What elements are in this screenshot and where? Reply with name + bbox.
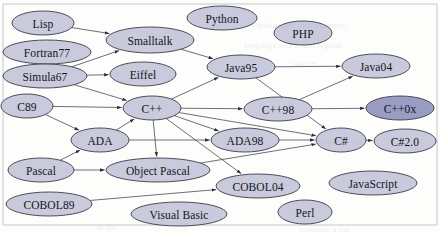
graph-edge-lisp-to-smalltalk [72, 28, 110, 34]
node-label-php: PHP [292, 28, 313, 40]
graph-node-cpp[interactable]: C++ [123, 96, 181, 120]
node-label-csharp20: C#2.0 [391, 136, 419, 148]
node-label-simula67: Simula67 [23, 71, 68, 83]
node-label-cpp: C++ [142, 103, 163, 115]
node-label-javascript: JavaScript [349, 178, 399, 191]
graph-edge-pascal-to-ada [60, 150, 80, 160]
graph-svg: LispFortran77Simula67C89SmalltalkEiffelC… [0, 0, 440, 232]
graph-edge-simula67-to-cpp [74, 85, 127, 101]
graph-node-pascal[interactable]: Pascal [8, 158, 74, 182]
graph-node-perl[interactable]: Perl [278, 200, 332, 224]
node-label-eiffel: Eiffel [130, 69, 157, 81]
graph-edge-cpp-to-java95 [171, 77, 218, 99]
graph-node-visualbasic[interactable]: Visual Basic [131, 202, 227, 226]
node-label-cpp0x: C++0x [384, 103, 417, 115]
graph-node-python[interactable]: Python [187, 6, 257, 30]
node-label-java95: Java95 [225, 62, 258, 74]
graph-edge-c89-to-cpp [53, 106, 122, 107]
node-label-objectpascal: Object Pascal [126, 165, 190, 178]
graph-node-javascript[interactable]: JavaScript [329, 171, 417, 195]
graph-edges-layer [45, 28, 372, 201]
graph-node-eiffel[interactable]: Eiffel [110, 62, 176, 86]
graph-node-php[interactable]: PHP [274, 21, 332, 45]
node-label-cobol04: COBOL04 [232, 181, 283, 193]
graph-edge-smalltalk-to-java95 [181, 49, 213, 58]
node-label-ada: ADA [87, 135, 113, 147]
node-label-lisp: Lisp [33, 18, 54, 31]
graph-edge-cpp98-to-java04 [299, 76, 352, 99]
graph-node-cobol89[interactable]: COBOL89 [6, 192, 92, 216]
graph-node-c89[interactable]: C89 [1, 94, 53, 118]
node-label-perl: Perl [296, 207, 315, 219]
graph-nodes-layer: LispFortran77Simula67C89SmalltalkEiffelC… [1, 6, 436, 226]
node-label-pascal: Pascal [26, 165, 56, 177]
graph-node-csharp20[interactable]: C#2.0 [374, 129, 436, 153]
graph-edge-c89-to-ada [45, 115, 79, 131]
node-label-csharp: C# [334, 135, 348, 147]
node-label-c89: C89 [17, 101, 37, 113]
graph-node-fortran77[interactable]: Fortran77 [3, 40, 91, 64]
node-label-python: Python [205, 13, 238, 26]
diagram-canvas: LispFortran77Simula67C89SmalltalkEiffelC… [0, 0, 440, 232]
node-label-visualbasic: Visual Basic [150, 209, 209, 221]
graph-edge-cpp-to-objectpascal [153, 120, 157, 157]
graph-node-java95[interactable]: Java95 [207, 55, 275, 79]
graph-edge-ada-to-cpp [116, 119, 134, 130]
graph-node-smalltalk[interactable]: Smalltalk [106, 27, 194, 53]
graph-node-cobol04[interactable]: COBOL04 [216, 174, 300, 198]
node-label-smalltalk: Smalltalk [128, 35, 173, 47]
graph-node-java04[interactable]: Java04 [342, 54, 410, 78]
graph-node-ada98[interactable]: ADA98 [211, 128, 279, 152]
graph-node-csharp[interactable]: C# [316, 128, 366, 152]
node-label-ada98: ADA98 [227, 135, 264, 147]
node-label-cpp98: C++98 [262, 104, 295, 116]
graph-node-cpp0x[interactable]: C++0x [366, 96, 434, 120]
graph-node-simula67[interactable]: Simula67 [3, 64, 87, 88]
graph-node-objectpascal[interactable]: Object Pascal [106, 158, 210, 182]
graph-edge-cobol89-to-cobol04 [90, 190, 216, 201]
node-label-cobol89: COBOL89 [23, 199, 74, 211]
graph-node-lisp[interactable]: Lisp [12, 11, 74, 35]
graph-node-ada[interactable]: ADA [71, 128, 129, 152]
graph-node-cpp98[interactable]: C++98 [244, 97, 312, 121]
node-label-java04: Java04 [360, 61, 393, 73]
node-label-fortran77: Fortran77 [24, 47, 70, 59]
